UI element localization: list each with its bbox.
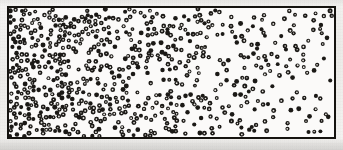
scan-shadow-bottom — [0, 138, 343, 150]
figure-root — [0, 0, 343, 150]
particle-container — [7, 6, 336, 139]
particle-field — [9, 8, 334, 137]
